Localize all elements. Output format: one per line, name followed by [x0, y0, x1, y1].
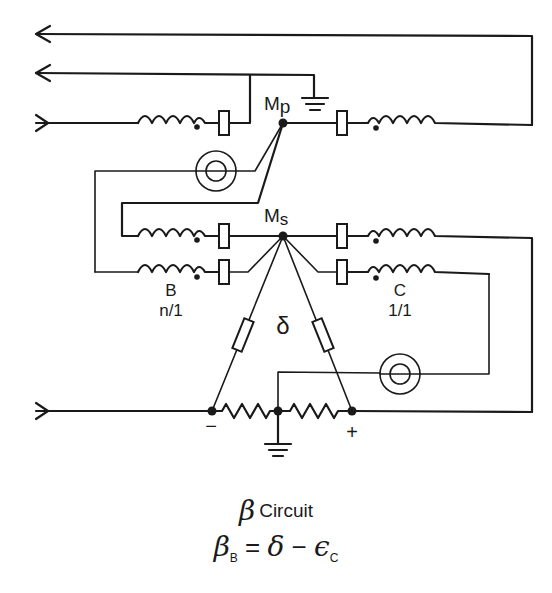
- eq-lhs-symbol: β: [214, 530, 230, 563]
- title-beta-symbol: β: [239, 494, 255, 527]
- label-transformer-c: C: [394, 281, 406, 300]
- diagram-equation: βB = δ − ϵC: [0, 530, 552, 565]
- label-delta: δ: [276, 312, 289, 339]
- meter-2-icon: [380, 354, 420, 394]
- meter-1-loop: [95, 123, 283, 272]
- polarity-dot-c-upper: [373, 238, 379, 244]
- eq-minus: −: [292, 532, 307, 562]
- eq-lhs-subscript: B: [230, 551, 238, 565]
- meter-1-icon: [196, 151, 236, 191]
- label-plus: +: [346, 421, 358, 443]
- secondary-upper-line: [138, 224, 532, 412]
- polarity-dot-c-lower: [373, 275, 379, 281]
- bottom-input-line: [36, 403, 532, 419]
- label-ratio-c: 1/1: [388, 301, 412, 320]
- title-text: Circuit: [259, 500, 313, 521]
- label-transformer-b: B: [165, 281, 176, 300]
- diagram-title: βCircuit: [0, 494, 552, 527]
- primary-to-secondary-link: [122, 123, 283, 236]
- polarity-dot-primary-right: [373, 125, 379, 131]
- label-minus: −: [205, 415, 217, 437]
- eq-term1: δ: [267, 530, 284, 563]
- label-ms: Ms: [264, 205, 288, 229]
- ground-icon-bottom: [265, 411, 291, 456]
- node-plus: [348, 407, 357, 416]
- polarity-dot-b-lower: [194, 274, 200, 280]
- eq-term2-symbol: ϵ: [314, 530, 330, 563]
- ground-icon-top: [302, 98, 328, 110]
- eq-term2-subscript: C: [330, 551, 339, 565]
- label-mp: Mp: [264, 93, 290, 117]
- eq-equals: =: [245, 532, 260, 562]
- label-ratio-b: n/1: [159, 301, 183, 320]
- polarity-dot-b-upper: [194, 237, 200, 243]
- polarity-dot-primary-left: [194, 124, 200, 130]
